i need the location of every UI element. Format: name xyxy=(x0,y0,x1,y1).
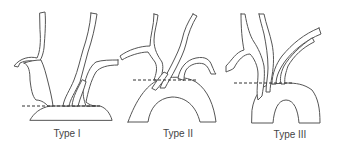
panel-type-1 xyxy=(14,12,118,120)
label-type-1: Type I xyxy=(27,128,107,139)
aortic-arch-type-2 xyxy=(128,77,216,122)
left-vessel-type-2 xyxy=(120,14,163,80)
label-type-3: Type III xyxy=(250,129,330,140)
label-type-2: Type II xyxy=(138,128,218,139)
panel-type-3 xyxy=(226,14,321,123)
aortic-arch-type-1 xyxy=(30,106,112,120)
left-vessel-type-3 xyxy=(226,14,264,100)
right-branch-type-2 xyxy=(178,57,216,80)
panel-type-2 xyxy=(120,14,216,122)
brachiocephalic-trunk-type-1 xyxy=(24,60,53,106)
right-branch-type-1 xyxy=(83,60,118,106)
right-vessel-type-3 xyxy=(272,28,321,84)
left-vessel-type-1 xyxy=(14,12,45,67)
